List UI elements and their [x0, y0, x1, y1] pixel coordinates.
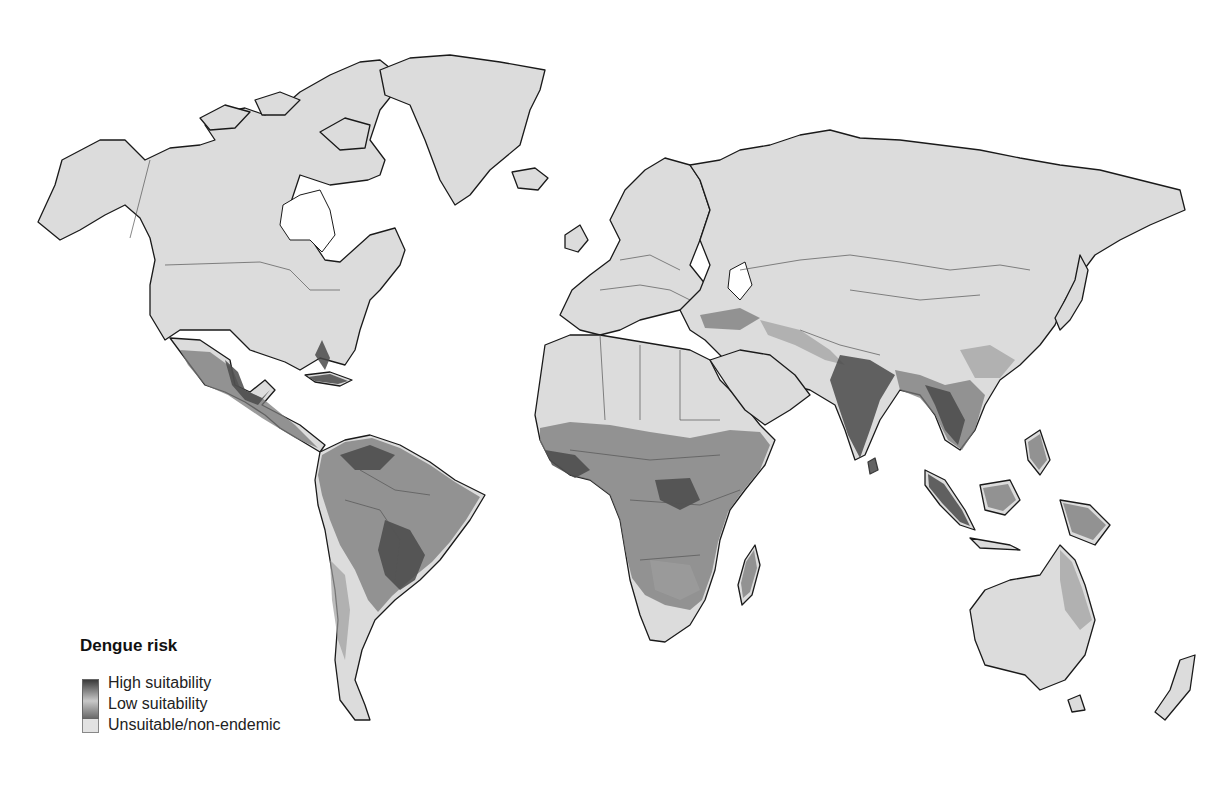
south-america — [315, 435, 485, 720]
legend-title: Dengue risk — [80, 636, 281, 656]
legend-label-unsuitable: Unsuitable/non-endemic — [108, 716, 281, 734]
north-america — [38, 60, 405, 452]
legend: Dengue risk High suitability Low suitabi… — [80, 636, 281, 735]
legend-gradient-swatch — [82, 679, 99, 719]
greenland — [380, 55, 548, 205]
maritime-southeast-asia — [925, 430, 1110, 550]
legend-item-low: Low suitability — [80, 693, 281, 714]
oceania — [970, 545, 1195, 720]
legend-item-unsuitable: Unsuitable/non-endemic — [80, 714, 281, 735]
legend-item-high: High suitability — [80, 672, 281, 693]
legend-label-high: High suitability — [108, 674, 211, 692]
legend-label-low: Low suitability — [108, 695, 208, 713]
